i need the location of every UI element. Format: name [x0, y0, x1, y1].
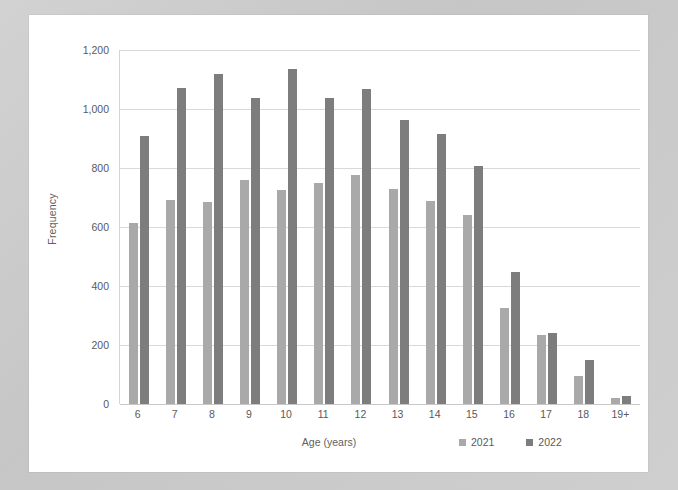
y-axis-tick-label: 0 [65, 398, 109, 410]
bar[interactable] [474, 166, 483, 404]
bar[interactable] [166, 200, 175, 404]
x-axis-tick-label: 6 [119, 408, 156, 420]
bar-groups [120, 50, 640, 404]
bar-group [231, 50, 268, 404]
x-axis-tick-label: 18 [565, 408, 602, 420]
page-background: Frequency 02004006008001,0001,200 678910… [0, 0, 678, 490]
x-axis-tick-label: 15 [453, 408, 490, 420]
y-axis-tick-label: 200 [65, 339, 109, 351]
bar[interactable] [288, 69, 297, 404]
bar[interactable] [537, 335, 546, 404]
bar[interactable] [203, 202, 212, 404]
bar-group [194, 50, 231, 404]
bar[interactable] [611, 398, 620, 404]
x-axis-tick-label: 7 [156, 408, 193, 420]
bar[interactable] [574, 376, 583, 404]
bar[interactable] [277, 190, 286, 404]
legend-item-2021[interactable]: 2021 [459, 436, 494, 448]
bar-group [566, 50, 603, 404]
bar[interactable] [622, 396, 631, 404]
bar[interactable] [500, 308, 509, 404]
bar[interactable] [240, 180, 249, 404]
bar-group [491, 50, 528, 404]
bar[interactable] [214, 74, 223, 404]
y-axis-title: Frequency [46, 159, 58, 279]
legend-swatch-icon-2022 [526, 439, 533, 446]
bar-group [343, 50, 380, 404]
x-axis-tick-label: 8 [193, 408, 230, 420]
y-axis-tick-label: 1,200 [65, 44, 109, 56]
bar-group [380, 50, 417, 404]
gridline [120, 404, 640, 405]
bar-group [306, 50, 343, 404]
bar-group [603, 50, 640, 404]
bar[interactable] [511, 272, 520, 404]
x-axis-tick-label: 14 [416, 408, 453, 420]
x-axis-tick-label: 12 [342, 408, 379, 420]
bar[interactable] [426, 201, 435, 404]
bar[interactable] [548, 333, 557, 404]
bar[interactable] [437, 134, 446, 404]
x-axis-tick-label: 17 [528, 408, 565, 420]
x-axis-tick-label: 11 [305, 408, 342, 420]
bar[interactable] [351, 175, 360, 404]
bar[interactable] [463, 215, 472, 404]
x-axis-tick-label: 13 [379, 408, 416, 420]
legend-label-2021: 2021 [471, 436, 494, 448]
y-axis-tick-labels: 02004006008001,0001,200 [65, 15, 109, 472]
legend-swatch-icon-2021 [459, 439, 466, 446]
bar[interactable] [389, 189, 398, 404]
x-axis-tick-label: 9 [230, 408, 267, 420]
bar[interactable] [362, 89, 371, 404]
x-axis-tick-label: 16 [490, 408, 527, 420]
bar-group [269, 50, 306, 404]
x-axis-title: Age (years) [239, 436, 419, 448]
x-axis-tick-label: 10 [268, 408, 305, 420]
bar[interactable] [325, 98, 334, 404]
bar[interactable] [129, 223, 138, 404]
y-axis-tick-label: 1,000 [65, 103, 109, 115]
x-axis-tick-label: 19+ [602, 408, 639, 420]
bar[interactable] [177, 88, 186, 404]
bar-group [417, 50, 454, 404]
x-axis-tick-labels: 678910111213141516171819+ [119, 408, 639, 420]
y-axis-tick-label: 800 [65, 162, 109, 174]
bar[interactable] [140, 136, 149, 404]
legend-label-2022: 2022 [538, 436, 561, 448]
y-axis-tick-label: 400 [65, 280, 109, 292]
bar-group [529, 50, 566, 404]
legend-item-2022[interactable]: 2022 [526, 436, 561, 448]
chart-legend: 2021 2022 [459, 436, 562, 448]
chart-card: Frequency 02004006008001,0001,200 678910… [29, 15, 648, 472]
bar[interactable] [314, 183, 323, 404]
bar-group [157, 50, 194, 404]
bar-group [120, 50, 157, 404]
y-axis-tick-label: 600 [65, 221, 109, 233]
chart-plot-area: Frequency 02004006008001,0001,200 678910… [29, 15, 648, 472]
bar[interactable] [251, 98, 260, 404]
bar[interactable] [585, 360, 594, 404]
plot-canvas [119, 50, 640, 404]
bar[interactable] [400, 120, 409, 404]
bar-group [454, 50, 491, 404]
